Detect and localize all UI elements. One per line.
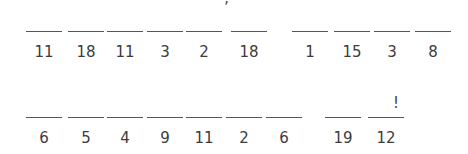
cipher-number: 18: [231, 43, 267, 61]
cipher-number: 2: [226, 129, 262, 147]
letter-slot[interactable]: 11: [26, 31, 62, 71]
cipher-number: 3: [374, 43, 410, 61]
letter-slot[interactable]: 12: [368, 117, 404, 154]
cipher-number: 8: [415, 43, 451, 61]
exclamation-mark: !: [393, 94, 399, 112]
letter-slot[interactable]: 2: [186, 31, 222, 71]
puzzle-row-2: 6 5 4 9 11 2 6 19 12: [0, 117, 468, 154]
letter-slot[interactable]: 6: [26, 117, 62, 154]
blank-line: [226, 117, 262, 118]
letter-slot[interactable]: 4: [107, 117, 143, 154]
blank-line: [147, 117, 183, 118]
cipher-number: 18: [68, 43, 104, 61]
blank-line: [415, 31, 451, 32]
blank-line: [186, 117, 222, 118]
letter-slot[interactable]: 5: [68, 117, 104, 154]
cipher-number: 15: [334, 43, 370, 61]
blank-line: [374, 31, 410, 32]
cipher-number: 19: [325, 129, 361, 147]
cipher-number: 11: [107, 43, 143, 61]
letter-slot[interactable]: 9: [147, 117, 183, 154]
blank-line: [292, 31, 328, 32]
blank-line: [368, 117, 404, 118]
letter-slot[interactable]: 6: [266, 117, 302, 154]
cipher-number: 9: [147, 129, 183, 147]
cipher-number: 6: [266, 129, 302, 147]
blank-line: [231, 31, 267, 32]
blank-line: [186, 31, 222, 32]
blank-line: [26, 117, 62, 118]
cipher-number: 2: [186, 43, 222, 61]
letter-slot[interactable]: 18: [231, 31, 267, 71]
letter-slot[interactable]: 18: [68, 31, 104, 71]
letter-slot[interactable]: 11: [186, 117, 222, 154]
cipher-number: 6: [26, 129, 62, 147]
letter-slot[interactable]: 11: [107, 31, 143, 71]
blank-line: [68, 117, 104, 118]
letter-slot[interactable]: 8: [415, 31, 451, 71]
cipher-number: 3: [147, 43, 183, 61]
apostrophe-mark: ’: [224, 0, 229, 17]
blank-line: [325, 117, 361, 118]
cipher-number: 1: [292, 43, 328, 61]
puzzle-row-1: 11 18 11 3 2 18 1 15 3 8: [0, 31, 468, 91]
blank-line: [107, 117, 143, 118]
blank-line: [147, 31, 183, 32]
blank-line: [334, 31, 370, 32]
letter-slot[interactable]: 2: [226, 117, 262, 154]
letter-slot[interactable]: 15: [334, 31, 370, 71]
letter-slot[interactable]: 1: [292, 31, 328, 71]
cipher-number: 11: [26, 43, 62, 61]
blank-line: [68, 31, 104, 32]
cipher-number: 11: [186, 129, 222, 147]
blank-line: [107, 31, 143, 32]
blank-line: [26, 31, 62, 32]
letter-slot[interactable]: 19: [325, 117, 361, 154]
blank-line: [266, 117, 302, 118]
letter-slot[interactable]: 3: [147, 31, 183, 71]
cipher-number: 5: [68, 129, 104, 147]
cipher-number: 12: [368, 129, 404, 147]
letter-slot[interactable]: 3: [374, 31, 410, 71]
cipher-number: 4: [107, 129, 143, 147]
